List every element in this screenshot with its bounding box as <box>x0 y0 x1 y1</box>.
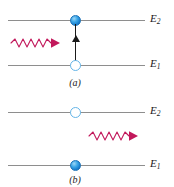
level-label-subscript: 2 <box>157 109 161 118</box>
photon-wave-icon <box>10 35 68 51</box>
level-label-subscript: 1 <box>157 62 161 71</box>
arrow-head-up-icon <box>72 35 80 42</box>
level-label-subscript: 2 <box>157 17 161 26</box>
electron-filled-e1-panel-b <box>70 160 81 171</box>
level-label-letter: E <box>150 104 157 116</box>
level-label-subscript: 1 <box>157 162 161 171</box>
energy-level-label-e2-panel-a: E2 <box>150 13 160 24</box>
panel-b: E2 E1 (b) <box>0 95 174 187</box>
panel-a: E2 E1 (a) <box>0 0 174 95</box>
energy-level-label-e1-panel-b: E1 <box>150 158 160 169</box>
photon-wave-arrow-outgoing-panel-b <box>88 128 146 144</box>
arrow-shaft <box>75 24 76 64</box>
electron-open-e1-panel-a <box>70 60 81 71</box>
energy-level-figure: E2 E1 (a) E2 <box>0 0 174 187</box>
level-label-letter: E <box>150 12 157 24</box>
photon-wave-arrow-incoming-panel-a <box>10 35 68 51</box>
panel-caption-b: (b) <box>0 175 162 185</box>
level-label-letter: E <box>150 57 157 69</box>
energy-level-label-e2-panel-b: E2 <box>150 105 160 116</box>
photon-wave-icon <box>88 128 146 144</box>
level-label-letter: E <box>150 157 157 169</box>
electron-open-e2-panel-b <box>70 107 81 118</box>
panel-caption-a: (a) <box>0 78 162 88</box>
energy-level-label-e1-panel-a: E1 <box>150 58 160 69</box>
